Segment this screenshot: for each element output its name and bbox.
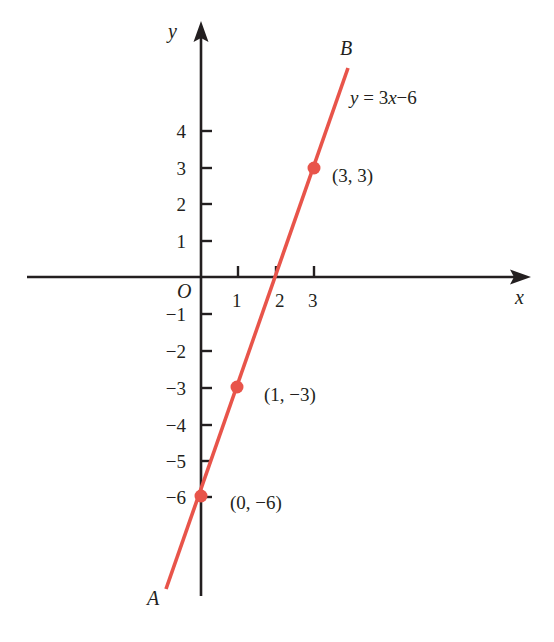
point-label-3-3: (3, 3) bbox=[332, 165, 373, 187]
y-tick-label: 4 bbox=[177, 121, 187, 142]
equation-equals: = 3 bbox=[358, 87, 388, 108]
point-3-3 bbox=[308, 162, 321, 175]
y-tick-label: 1 bbox=[177, 231, 187, 252]
endpoint-label-a: A bbox=[145, 587, 160, 609]
x-tick-label: 1 bbox=[232, 290, 242, 311]
line-graph: x y O 1 2 3 4 3 2 1 −1 −2 −3 bbox=[0, 0, 554, 642]
y-tick-labels: 4 3 2 1 −1 −2 −3 −4 −5 −6 bbox=[166, 121, 187, 508]
y-tick-label: −5 bbox=[166, 451, 186, 472]
y-tick-label: −3 bbox=[166, 378, 186, 399]
y-tick-label: −4 bbox=[166, 415, 187, 436]
equation-y: y bbox=[348, 87, 359, 108]
origin-label: O bbox=[177, 280, 191, 302]
y-ticks bbox=[201, 131, 212, 497]
point-label-0-neg6: (0, −6) bbox=[230, 492, 282, 514]
x-tick-label: 2 bbox=[275, 290, 285, 311]
y-tick-label: −1 bbox=[166, 304, 186, 325]
endpoint-label-b: B bbox=[340, 37, 352, 59]
x-tick-label: 3 bbox=[308, 290, 318, 311]
point-0-neg6 bbox=[195, 490, 208, 503]
x-tick-labels: 1 2 3 bbox=[232, 290, 318, 311]
y-tick-label: 2 bbox=[177, 194, 187, 215]
equation-tail: −6 bbox=[397, 87, 417, 108]
y-tick-label: 3 bbox=[177, 158, 187, 179]
y-tick-label: −6 bbox=[166, 487, 186, 508]
point-1-neg3 bbox=[231, 381, 244, 394]
equation-label: y = 3x−6 bbox=[348, 87, 417, 108]
point-label-1-neg3: (1, −3) bbox=[264, 384, 316, 406]
y-tick-label: −2 bbox=[166, 341, 186, 362]
x-axis-label: x bbox=[514, 286, 524, 308]
y-axis-label: y bbox=[166, 20, 177, 43]
